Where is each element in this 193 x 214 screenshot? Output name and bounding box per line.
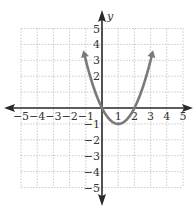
y-tick-label: −2	[84, 134, 100, 147]
y-tick-label: −1	[84, 118, 100, 131]
y-tick-label: 4	[93, 38, 100, 51]
x-tick-label: −3	[45, 110, 61, 123]
y-tick-label: 2	[93, 70, 100, 83]
y-axis-label: y	[106, 10, 114, 23]
x-tick-label: 4	[163, 110, 170, 123]
y-tick-label: −5	[84, 182, 100, 195]
y-tick-label: −4	[84, 166, 100, 179]
x-tick-label: −5	[13, 110, 29, 123]
y-tick-label: 3	[93, 54, 100, 67]
x-tick-label: 1	[115, 110, 122, 123]
x-tick-label: −4	[29, 110, 45, 123]
x-tick-label: 5	[180, 110, 187, 123]
y-tick-label: 5	[93, 23, 100, 36]
y-tick-label: −3	[84, 150, 100, 163]
x-tick-label: 3	[147, 110, 154, 123]
coordinate-plane: −5−4−3−2−1123455432−1−2−3−4−5 y	[0, 0, 193, 214]
x-tick-label: −2	[61, 110, 77, 123]
